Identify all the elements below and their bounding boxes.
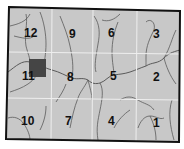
zone-label-7: 7 bbox=[65, 114, 72, 128]
zone-label-11: 11 bbox=[22, 69, 35, 83]
zone-label-9: 9 bbox=[69, 27, 76, 41]
zone-label-3: 3 bbox=[153, 27, 160, 41]
zone-label-4: 4 bbox=[108, 114, 115, 128]
zone-label-8: 8 bbox=[67, 70, 74, 84]
zone-label-10: 10 bbox=[21, 114, 35, 128]
zoned-map: 12 9 6 3 11 8 5 2 10 7 4 1 bbox=[0, 0, 184, 149]
zone-label-12: 12 bbox=[24, 26, 38, 40]
zone-label-5: 5 bbox=[110, 69, 117, 83]
zone-label-6: 6 bbox=[108, 26, 115, 40]
zone-label-1: 1 bbox=[153, 116, 160, 130]
zone-label-2: 2 bbox=[153, 70, 160, 84]
